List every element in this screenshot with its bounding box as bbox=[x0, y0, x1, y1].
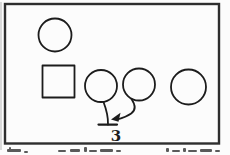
arrow-head-icon bbox=[111, 113, 121, 122]
row-circle-3 bbox=[171, 70, 206, 105]
connector-line bbox=[104, 102, 109, 125]
clipped-caption-fragment bbox=[200, 149, 212, 152]
clipped-caption-fragment bbox=[24, 151, 28, 153]
clipped-caption-fragment bbox=[215, 150, 220, 152]
clipped-caption-fragment bbox=[58, 150, 66, 152]
clipped-caption-fragment bbox=[116, 150, 121, 152]
clipped-caption-fragment bbox=[84, 147, 87, 152]
clipped-caption-fragment bbox=[89, 150, 97, 152]
row-circle-1 bbox=[85, 70, 117, 102]
clipped-caption-fragment bbox=[188, 150, 197, 152]
clipped-caption-fragment bbox=[166, 148, 169, 152]
count-label: 3 bbox=[111, 127, 121, 145]
row-circle-2 bbox=[123, 69, 155, 101]
arrow-curve bbox=[118, 99, 135, 120]
scanned-figure: 3 bbox=[0, 0, 230, 155]
top-circle-shape bbox=[39, 19, 72, 52]
clipped-caption bbox=[0, 147, 230, 155]
clipped-caption-fragment bbox=[70, 149, 80, 152]
shape-group bbox=[39, 19, 207, 125]
diagram-canvas: 3 bbox=[0, 0, 230, 155]
clipped-caption-fragment bbox=[183, 148, 186, 152]
clipped-caption-fragment bbox=[9, 147, 11, 152]
square-shape bbox=[43, 66, 75, 98]
clipped-caption-fragment bbox=[172, 150, 180, 152]
clipped-caption-fragment bbox=[100, 149, 113, 152]
